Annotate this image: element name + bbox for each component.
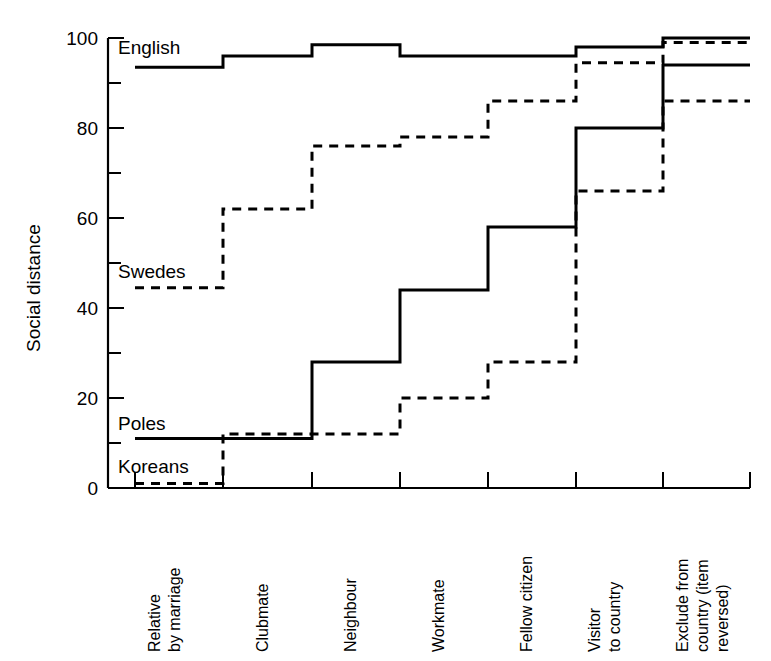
x-cat-3-line-0: Workmate	[430, 579, 447, 652]
x-cat-5-line-1: to country	[606, 582, 623, 652]
x-category-label-relative-by-marriage: Relative by marriage	[146, 567, 183, 652]
x-cat-5-line-0: Visitor	[586, 607, 603, 652]
x-cat-1-line-0: Clubmate	[254, 583, 271, 652]
x-category-label-neighbour: Neighbour	[342, 578, 359, 653]
x-category-label-clubmate: Clubmate	[254, 583, 271, 652]
series-label-swedes: Swedes	[118, 261, 186, 282]
series-line-poles	[135, 65, 750, 439]
y-axis-title: Social distance	[23, 224, 44, 352]
y-tick-label-100: 100	[66, 28, 98, 49]
y-tick-label-0: 0	[87, 478, 98, 499]
series-line-english	[135, 38, 750, 67]
y-tick-label-40: 40	[77, 298, 98, 319]
series-label-koreans: Koreans	[118, 456, 189, 477]
x-category-label-exclude-from-country: Exclude from country (item reversed)	[674, 559, 731, 652]
x-category-label-fellow-citizen: Fellow citizen	[518, 556, 535, 652]
x-cat-0-line-1: by marriage	[166, 567, 183, 652]
series-label-english: English	[118, 37, 180, 58]
series-label-poles: Poles	[118, 413, 166, 434]
y-tick-label-80: 80	[77, 118, 98, 139]
series-line-swedes	[135, 43, 750, 288]
y-tick-label-20: 20	[77, 388, 98, 409]
x-cat-4-line-0: Fellow citizen	[518, 556, 535, 652]
social-distance-chart: 100 80 60 40 20 0 Social distance Englis…	[0, 0, 771, 661]
x-category-label-visitor-to-country: Visitor to country	[586, 582, 623, 652]
x-cat-6-line-1: country (item	[694, 560, 711, 652]
x-cat-2-line-0: Neighbour	[342, 578, 359, 653]
y-tick-label-60: 60	[77, 208, 98, 229]
series-line-koreans	[135, 101, 750, 484]
chart-canvas: 100 80 60 40 20 0 Social distance Englis…	[0, 0, 771, 661]
x-cat-6-line-0: Exclude from	[674, 559, 691, 652]
x-cat-6-line-2: reversed)	[714, 584, 731, 652]
x-category-label-workmate: Workmate	[430, 579, 447, 652]
x-cat-0-line-0: Relative	[146, 594, 163, 652]
